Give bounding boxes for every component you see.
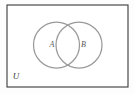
universal-set-rectangle	[7, 5, 128, 87]
set-b-label: B	[81, 40, 86, 49]
venn-diagram-canvas: A B U	[0, 0, 134, 94]
universal-set-label: U	[13, 71, 20, 81]
venn-diagram-figure: A B U	[0, 0, 134, 94]
set-a-label: A	[49, 40, 55, 49]
